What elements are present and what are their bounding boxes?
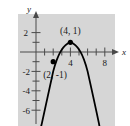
graph-canvas: y x 4 8 2 -2 -4 -6 (4, 1) (2, -1) — [0, 0, 130, 126]
vertex-point-marker — [68, 40, 73, 45]
x-tick-label-8: 8 — [103, 58, 108, 68]
y-tick-label-neg6: -6 — [23, 106, 31, 116]
x-axis-label: x — [121, 47, 126, 57]
y-tick-label-2: 2 — [24, 28, 29, 38]
y-tick-label-neg2: -2 — [23, 67, 31, 77]
x-tick-label-4: 4 — [68, 58, 73, 68]
vertex-point-label: (4, 1) — [60, 26, 81, 37]
parabola-figure: y x 4 8 2 -2 -4 -6 (4, 1) (2, -1) — [0, 0, 130, 126]
secondary-point-marker — [51, 59, 56, 64]
secondary-point-label: (2, -1) — [43, 70, 67, 81]
y-axis-label: y — [26, 4, 31, 14]
y-tick-label-neg4: -4 — [23, 86, 31, 96]
